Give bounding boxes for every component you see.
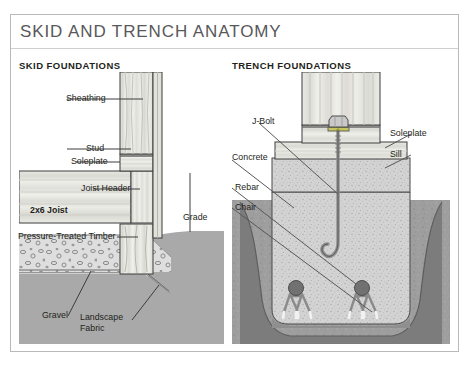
label-grade: Grade (183, 212, 207, 223)
label-rebar: Rebar (235, 182, 259, 193)
label-sill: Sill (390, 149, 402, 160)
panel-heading-trench: TRENCH FOUNDATIONS (232, 60, 351, 71)
label-joist: 2x6 Joist (30, 205, 68, 216)
diagram-page: SKID AND TRENCH ANATOMY SKID FOUNDATIONS… (0, 0, 471, 365)
label-joist-header: Joist Header (81, 183, 130, 194)
title-divider (11, 48, 458, 49)
label-sheathing: Sheathing (66, 93, 106, 104)
label-soleplate-trench: Soleplate (390, 128, 427, 139)
label-gravel: Gravel (42, 310, 68, 321)
label-landscape-fabric-line2: Fabric (80, 323, 104, 333)
label-landscape-fabric-line1: Landscape (80, 312, 123, 322)
label-pressure-treated-timber: Pressure-Treated Timber (18, 231, 115, 242)
label-concrete: Concrete (232, 152, 268, 163)
page-title: SKID AND TRENCH ANATOMY (20, 22, 282, 42)
label-stud: Stud (86, 143, 104, 154)
label-soleplate-skid: Soleplate (71, 156, 108, 167)
panel-heading-skid: SKID FOUNDATIONS (19, 60, 121, 71)
label-chair: Chair (235, 202, 256, 213)
label-j-bolt: J-Bolt (252, 116, 275, 127)
label-landscape-fabric: Landscape Fabric (80, 312, 123, 333)
trench-foundation-drawing (232, 72, 450, 344)
